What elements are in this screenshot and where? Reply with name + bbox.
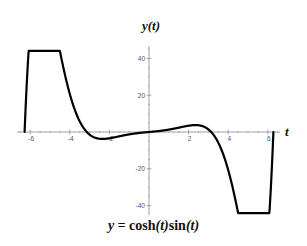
caption-arg1: (t) [156,218,169,233]
caption-lhs: y = [108,218,129,233]
chart: -6-4-2246 -40-202040 y(t) t [0,0,307,246]
caption-cosh: cosh [129,218,155,233]
y-tick-label: -20 [136,165,146,172]
y-tick-label: -40 [136,202,146,209]
y-axis-title: y(t) [140,18,160,33]
x-tick-label: -6 [28,135,34,142]
x-tick-label: -4 [68,135,74,142]
y-tick-label: 20 [138,92,146,99]
caption-arg2: (t) [186,218,199,233]
axes: -6-4-2246 -40-202040 [17,46,280,215]
x-tick-label: 4 [227,135,231,142]
x-tick-label: 2 [188,135,192,142]
x-tick-label: 6 [267,135,271,142]
y-tick-label: 40 [138,55,146,62]
caption-sin: sin [169,218,186,233]
chart-caption: y = cosh(t)sin(t) [0,218,307,234]
x-axis-title: t [285,124,289,139]
